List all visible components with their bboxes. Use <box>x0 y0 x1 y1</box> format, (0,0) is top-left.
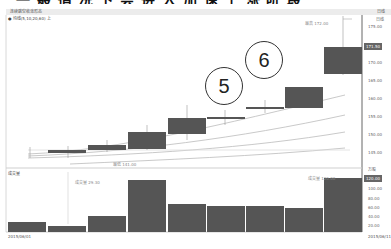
candles <box>48 47 362 153</box>
price-tick: 165.00 <box>368 78 382 83</box>
high-annotation: 最高 172.00 <box>305 20 328 26</box>
volume-tick: 60.00 <box>368 205 379 210</box>
low-annotation: 最低 141.00 <box>113 161 136 167</box>
marker-6: 6 <box>245 41 283 79</box>
price-tick: 155.00 <box>368 114 382 119</box>
price-tick: 150.00 <box>368 132 382 137</box>
price-tick: 145.00 <box>368 150 382 155</box>
volume-tick: 40.00 <box>368 214 379 219</box>
current-volume-tag: 120.00 <box>364 175 382 182</box>
price-tick: 160.00 <box>368 96 382 101</box>
volume-tick: 80.00 <box>368 196 379 201</box>
volume-tick: 100.00 <box>368 186 382 191</box>
price-tick: 175.00 <box>368 24 382 29</box>
start-date: 2015/06/01 <box>8 234 31 239</box>
volume-tick: 20.00 <box>368 223 379 228</box>
current-price-tag: 171.50 <box>364 43 382 50</box>
volume-max-annotation: 成交量 120.00 <box>308 175 335 181</box>
volume-axis-label: 万股 <box>368 166 376 172</box>
volume-annotation: 成交量 29.30 <box>75 179 100 185</box>
price-tick: 170.00 <box>368 60 382 65</box>
marker-5: 5 <box>205 67 243 105</box>
volume-bars <box>8 178 362 232</box>
volume-panel-label: 成交量 <box>8 170 20 176</box>
chart-canvas <box>0 0 391 249</box>
end-date: 2015/06/11 <box>368 234 391 239</box>
price-axis-label: 日线 <box>376 16 384 22</box>
